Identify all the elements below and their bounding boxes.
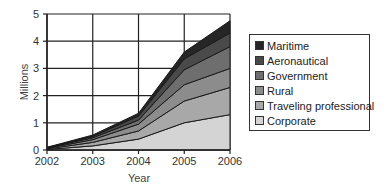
legend-label: Corporate [267,115,316,127]
legend-item: Maritime [255,38,369,53]
svg-text:2006: 2006 [218,155,242,167]
svg-text:1: 1 [33,117,39,129]
legend-item: Government [255,68,369,83]
svg-text:2005: 2005 [172,155,196,167]
legend-label: Maritime [267,40,309,52]
legend-label: Rural [267,85,293,97]
legend-swatch [255,101,264,110]
svg-text:4: 4 [33,35,39,47]
legend-item: Traveling professional [255,98,369,113]
y-axis-ticks: 012345 [33,8,47,156]
legend-swatch [255,86,264,95]
legend-item: Aeronautical [255,53,369,68]
legend-swatch [255,56,264,65]
svg-text:2002: 2002 [35,155,59,167]
legend: Maritime Aeronautical Government Rural T… [249,34,370,131]
legend-label: Traveling professional [267,100,374,112]
svg-text:3: 3 [33,62,39,74]
x-axis-title: Year [128,172,151,184]
svg-text:2004: 2004 [126,155,150,167]
legend-item: Corporate [255,113,369,128]
x-axis-ticks: 20022003200420052006 [35,150,242,167]
legend-label: Aeronautical [267,55,328,67]
legend-swatch [255,41,264,50]
legend-swatch [255,71,264,80]
svg-text:2003: 2003 [81,155,105,167]
svg-text:5: 5 [33,8,39,20]
legend-label: Government [267,70,328,82]
legend-item: Rural [255,83,369,98]
legend-swatch [255,116,264,125]
svg-text:2: 2 [33,90,39,102]
y-axis-title: Millions [18,63,30,100]
